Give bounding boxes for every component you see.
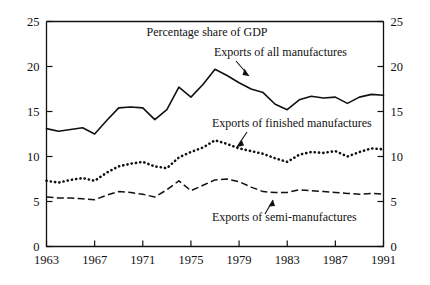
series-line-exports-of-finished-manufactures <box>47 140 384 182</box>
y-axis-label-left-15: 15 <box>27 105 40 119</box>
y-axis-label-right-25: 25 <box>391 15 404 29</box>
y-axis-label-right-20: 20 <box>391 60 404 74</box>
annotation-arrowhead-2 <box>269 200 276 207</box>
x-axis-label-1983: 1983 <box>275 253 300 267</box>
annotation-label-exports-of-all-manufactures: Exports of all manufactures <box>214 45 347 59</box>
plot-title: Percentage share of GDP <box>147 25 268 39</box>
y-axis-label-right-10: 10 <box>391 150 404 164</box>
annotation-label-exports-of-finished-manufactures: Exports of finished manufactures <box>212 116 372 130</box>
annotation-label-exports-of-semi-manufactures: Exports of semi-manufactures <box>212 210 357 224</box>
x-axis-label-1991: 1991 <box>371 253 396 267</box>
chart-figure: 0055101015152020252519631967197119751979… <box>0 0 430 285</box>
y-axis-label-right-15: 15 <box>391 105 404 119</box>
y-axis-label-left-10: 10 <box>27 150 40 164</box>
x-axis-label-1963: 1963 <box>34 253 59 267</box>
series-line-exports-of-semi-manufactures <box>47 179 384 200</box>
annotation-arrowhead-1 <box>237 140 244 148</box>
x-axis-label-1967: 1967 <box>82 253 107 267</box>
x-axis-label-1971: 1971 <box>130 253 155 267</box>
x-axis-label-1979: 1979 <box>227 253 252 267</box>
y-axis-label-right-5: 5 <box>391 195 397 209</box>
x-axis-label-1975: 1975 <box>178 253 203 267</box>
x-axis-label-1987: 1987 <box>323 253 348 267</box>
chart-canvas: 0055101015152020252519631967197119751979… <box>0 0 430 285</box>
y-axis-label-left-20: 20 <box>27 60 40 74</box>
y-axis-label-left-5: 5 <box>33 195 39 209</box>
y-axis-label-left-25: 25 <box>27 15 40 29</box>
